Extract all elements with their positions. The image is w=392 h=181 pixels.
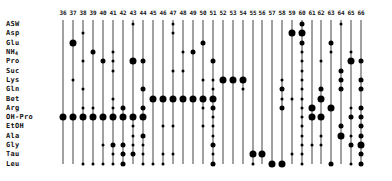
data-dot [301, 98, 304, 101]
data-dot [60, 114, 67, 121]
data-dot [311, 144, 314, 147]
data-dot [320, 144, 323, 147]
column-line [183, 20, 184, 164]
data-dot [212, 79, 215, 82]
data-dot [212, 125, 215, 128]
column-label: 42 [119, 9, 126, 16]
data-dot [132, 135, 135, 138]
column-line [223, 20, 224, 164]
data-dot [301, 51, 304, 54]
column-label: 60 [298, 9, 305, 16]
data-dot [101, 59, 106, 64]
data-dot [132, 125, 135, 128]
data-dot [212, 116, 215, 119]
data-dot [339, 69, 344, 74]
data-dot [132, 23, 135, 26]
data-dot [299, 30, 306, 37]
data-dot [162, 125, 165, 128]
data-dot [121, 162, 126, 167]
column-label: 61 [308, 9, 315, 16]
data-dot [142, 144, 145, 147]
data-dot [279, 161, 286, 168]
data-dot [319, 87, 324, 92]
data-dot [301, 107, 304, 110]
data-dot [329, 41, 334, 46]
data-dot [301, 79, 304, 82]
row-label: Glu [6, 39, 20, 47]
column-label: 52 [219, 9, 226, 16]
data-dot [172, 125, 175, 128]
column-label: 54 [239, 9, 246, 16]
data-dot [130, 58, 137, 65]
data-dot [301, 60, 304, 63]
data-dot [240, 77, 247, 84]
data-dot [338, 133, 345, 140]
data-dot [70, 40, 77, 47]
column-line [63, 20, 64, 164]
data-dot [72, 79, 75, 82]
data-dot [112, 51, 115, 54]
data-dot [141, 134, 146, 139]
row-label: Gly [6, 141, 20, 149]
column-label: 57 [268, 9, 275, 16]
column-line [193, 20, 194, 164]
data-dot [291, 98, 294, 101]
data-dot [300, 22, 305, 27]
row-label: Pro [6, 57, 20, 65]
data-dot [200, 96, 207, 103]
row-label: OH-Pro [6, 113, 33, 121]
row-label: Arg [6, 104, 20, 112]
data-dot [82, 163, 85, 166]
data-dot [250, 151, 257, 158]
column-line [103, 20, 104, 164]
data-dot [132, 144, 135, 147]
column-line [321, 20, 322, 164]
data-dot [211, 106, 216, 111]
data-dot [309, 114, 316, 121]
column-label: 37 [69, 9, 76, 16]
column-line [163, 20, 164, 164]
data-dot [202, 107, 205, 110]
data-dot [120, 114, 127, 121]
data-dot [359, 59, 364, 64]
data-dot [252, 163, 255, 166]
data-dot [131, 152, 136, 157]
data-dot [211, 162, 216, 167]
data-dot [182, 70, 185, 73]
row-label: Bet [6, 95, 20, 103]
data-dot [359, 87, 364, 92]
data-dot [172, 23, 175, 26]
data-dot [90, 114, 97, 121]
data-dot [162, 153, 165, 156]
column-label: 49 [189, 9, 196, 16]
data-dot [291, 153, 294, 156]
data-dot [112, 60, 115, 63]
data-dot [349, 143, 354, 148]
data-dot [301, 125, 304, 128]
data-dot [102, 163, 105, 166]
data-dot [142, 163, 145, 166]
column-label: 39 [89, 9, 96, 16]
row-label: Ala [6, 132, 20, 140]
column-line [153, 20, 154, 164]
data-dot [280, 106, 285, 111]
column-label: 40 [99, 9, 106, 16]
data-dot [211, 143, 216, 148]
column-label: 44 [139, 9, 146, 16]
column-line [292, 20, 293, 164]
data-dot [340, 23, 343, 26]
column-line [272, 20, 273, 164]
column-line [341, 20, 342, 164]
data-dot [301, 163, 304, 166]
data-dot [130, 114, 137, 121]
data-dot [301, 116, 304, 119]
data-dot [281, 98, 284, 101]
column-label: 65 [347, 9, 354, 16]
data-dot [281, 79, 284, 82]
column-label: 62 [317, 9, 324, 16]
row-label: Asp [6, 29, 20, 37]
dot-matrix-diagram: ASWAspGluNH4ProSucLysGlnBetArgOH-ProEtOH… [0, 0, 392, 181]
data-dot [82, 107, 85, 110]
column-line [93, 20, 94, 164]
data-dot [329, 162, 334, 167]
